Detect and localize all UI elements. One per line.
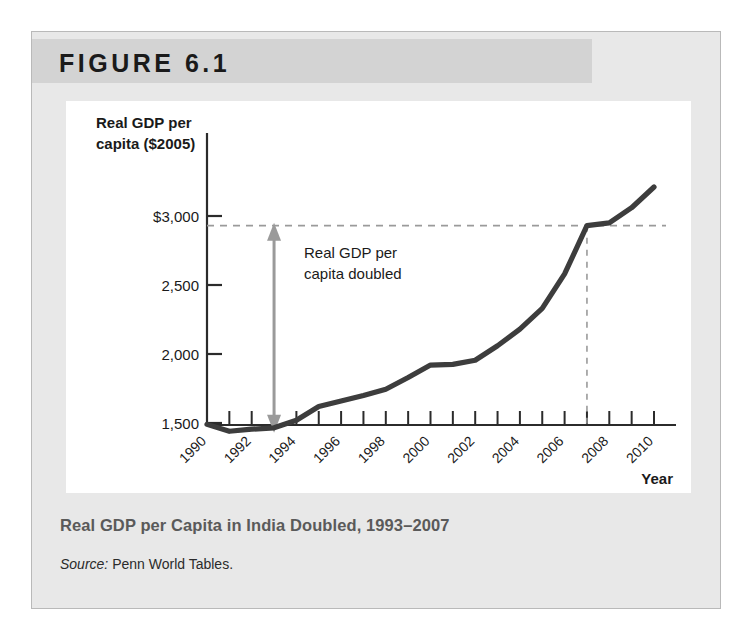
figure-panel: FIGURE 6.1 Real GDP per capita ($2005) $… [31, 31, 721, 609]
x-tick-label-2008: 2008 [578, 433, 611, 466]
y-tick-label-1500: 1,500 [161, 415, 199, 432]
source-text: Penn World Tables. [108, 556, 233, 572]
figure-caption: Real GDP per Capita in India Doubled, 19… [60, 516, 450, 535]
y-axis-tick-labels: $3,000 2,500 2,000 1,500 [153, 208, 199, 432]
y-axis-title: Real GDP per capita ($2005) [96, 114, 195, 152]
x-tick-label-1992: 1992 [220, 433, 253, 466]
x-tick-label-1994: 1994 [265, 433, 298, 466]
doubling-arrow [267, 223, 281, 433]
x-tick-label-2002: 2002 [444, 433, 477, 466]
figure-source: Source: Penn World Tables. [60, 556, 233, 572]
y-axis-title-line1: Real GDP per [96, 114, 192, 131]
y-tick-label-3000: $3,000 [153, 208, 199, 225]
x-tick-label-2004: 2004 [489, 433, 522, 466]
doubling-annotation-line2: capita doubled [304, 265, 402, 282]
y-tick-label-2000: 2,000 [161, 346, 199, 363]
x-tick-label-1990: 1990 [176, 433, 209, 466]
y-axis-title-line2: capita ($2005) [96, 135, 195, 152]
x-tick-label-2010: 2010 [623, 433, 656, 466]
doubling-annotation-text: Real GDP per capita doubled [304, 244, 402, 282]
x-tick-label-1998: 1998 [355, 433, 388, 466]
line-chart: Real GDP per capita ($2005) $3,000 2,500… [66, 101, 691, 493]
x-tick-label-1996: 1996 [310, 433, 343, 466]
x-tick-label-2000: 2000 [399, 433, 432, 466]
x-tick-label-2006: 2006 [533, 433, 566, 466]
y-tick-label-2500: 2,500 [161, 277, 199, 294]
x-axis-title: Year [641, 470, 673, 487]
source-label: Source: [60, 556, 108, 572]
doubling-annotation-line1: Real GDP per [304, 244, 397, 261]
chart-plot-panel: Real GDP per capita ($2005) $3,000 2,500… [66, 101, 691, 493]
figure-number-label: FIGURE 6.1 [59, 49, 230, 78]
x-axis-tick-labels: 1990199219941996199820002002200420062008… [176, 433, 656, 466]
y-axis-ticks [207, 216, 222, 423]
